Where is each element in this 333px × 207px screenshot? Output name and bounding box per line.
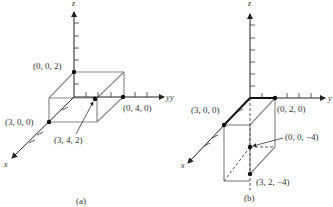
label-3-0-0: (3, 0, 0) bbox=[5, 117, 34, 127]
point-3-0-0 bbox=[47, 120, 51, 124]
x-axis-b-bold-segment bbox=[224, 98, 250, 125]
point-0-2-0 bbox=[273, 96, 277, 100]
panel-b: z y x y (3, 0, 0) (0, 2, 0) (0, 0, −4) (… bbox=[169, 0, 332, 203]
label-3-4-2: (3, 4, 2) bbox=[54, 135, 83, 145]
label-3-0-0-b: (3, 0, 0) bbox=[191, 105, 220, 115]
panel-a: z y x (0, 0, 2) (0, 4, 0) (3, 0, 0) (3, … bbox=[3, 0, 170, 206]
z-axis-label-b: z bbox=[247, 0, 252, 8]
point-3-2-neg4 bbox=[248, 172, 252, 176]
diagram-canvas: z y x (0, 0, 2) (0, 4, 0) (3, 0, 0) (3, … bbox=[0, 0, 333, 207]
caption-a: (a) bbox=[76, 196, 86, 206]
label-3-2-neg4: (3, 2, −4) bbox=[256, 177, 290, 187]
ticks-b bbox=[204, 25, 311, 146]
ticks-a bbox=[29, 23, 147, 143]
x-axis-label-a: x bbox=[3, 160, 8, 169]
point-0-0-2 bbox=[72, 70, 76, 74]
axes-a bbox=[12, 12, 164, 158]
point-0-0-neg4 bbox=[248, 145, 252, 149]
z-axis-label-a: z bbox=[71, 0, 76, 8]
leader-0-0-neg4 bbox=[253, 138, 283, 146]
label-0-0-neg4: (0, 0, −4) bbox=[285, 132, 319, 142]
x-axis-a bbox=[12, 97, 74, 158]
label-0-4-0: (0, 4, 0) bbox=[123, 103, 152, 113]
caption-b: (b) bbox=[244, 193, 255, 203]
x-axis-label-b: x bbox=[180, 161, 185, 170]
leader-3-4-2 bbox=[76, 102, 93, 134]
label-0-2-0: (0, 2, 0) bbox=[277, 104, 306, 114]
label-0-0-2: (0, 0, 2) bbox=[33, 61, 62, 71]
y-axis-label-b: y bbox=[327, 94, 332, 103]
point-3-4-2 bbox=[93, 97, 97, 101]
point-0-4-0 bbox=[121, 95, 125, 99]
point-3-0-0-b bbox=[222, 123, 226, 127]
stray-label-b: y bbox=[169, 93, 174, 102]
